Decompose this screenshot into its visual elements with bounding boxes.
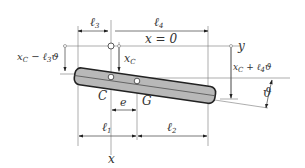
label-l2: ℓ2 [167, 120, 177, 135]
rigid-bar-diagram: ℓ3 ℓ4 x = 0 y xC − ℓ3ϑ xC xC + ℓ4ϑ ϑ C G… [0, 0, 305, 168]
label-l4: ℓ4 [154, 15, 163, 30]
y-ref-dot [230, 45, 233, 48]
label-theta: ϑ [263, 86, 272, 100]
label-e: e [120, 96, 127, 109]
label-xc: xC [124, 52, 136, 66]
rotated-axis-extension [208, 99, 268, 108]
point-c [108, 74, 114, 80]
left-ref-dot [64, 45, 67, 48]
label-x-axis: x [108, 152, 115, 166]
point-g [134, 78, 140, 84]
label-y-axis: y [237, 39, 245, 53]
label-xc-plus-l4-theta: xC + ℓ4ϑ [233, 62, 272, 74]
label-point-g: G [142, 94, 152, 108]
label-xc-minus-l3-theta: xC − ℓ3ϑ [17, 51, 59, 64]
label-l3: ℓ3 [90, 15, 100, 30]
label-point-c: C [98, 89, 107, 103]
label-l1: ℓ1 [102, 120, 111, 135]
xc-ref-dot [118, 45, 121, 48]
label-x-equals-zero: x = 0 [145, 32, 177, 46]
top-pivot-point [108, 43, 114, 49]
